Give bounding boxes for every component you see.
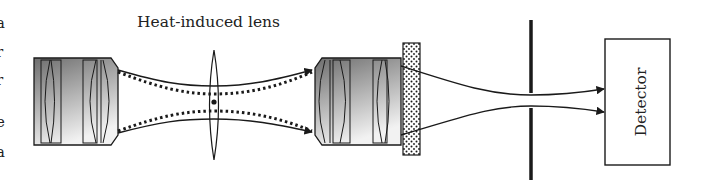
objective-lens-2: [315, 58, 401, 145]
left-edge-text-fragments: a r r e a: [0, 14, 5, 161]
dotted-filter: [403, 43, 420, 155]
detector-label: Detector: [632, 67, 650, 136]
thermal-lens: [210, 50, 219, 160]
output-beams: [401, 66, 604, 135]
optical-setup-diagram: a r r e a Heat-induced lens: [0, 0, 707, 180]
heat-induced-lens-label: Heat-induced lens: [137, 13, 280, 31]
fragment-4: e: [0, 113, 5, 131]
detector-box: Detector: [605, 39, 670, 165]
fragment-3: r: [0, 71, 4, 89]
fragment-2: r: [0, 43, 4, 61]
fragment-1: a: [0, 14, 5, 32]
fragment-5: a: [0, 143, 5, 161]
objective-lens-1: [34, 58, 118, 145]
thermal-lens-focus-dot: [211, 99, 216, 104]
